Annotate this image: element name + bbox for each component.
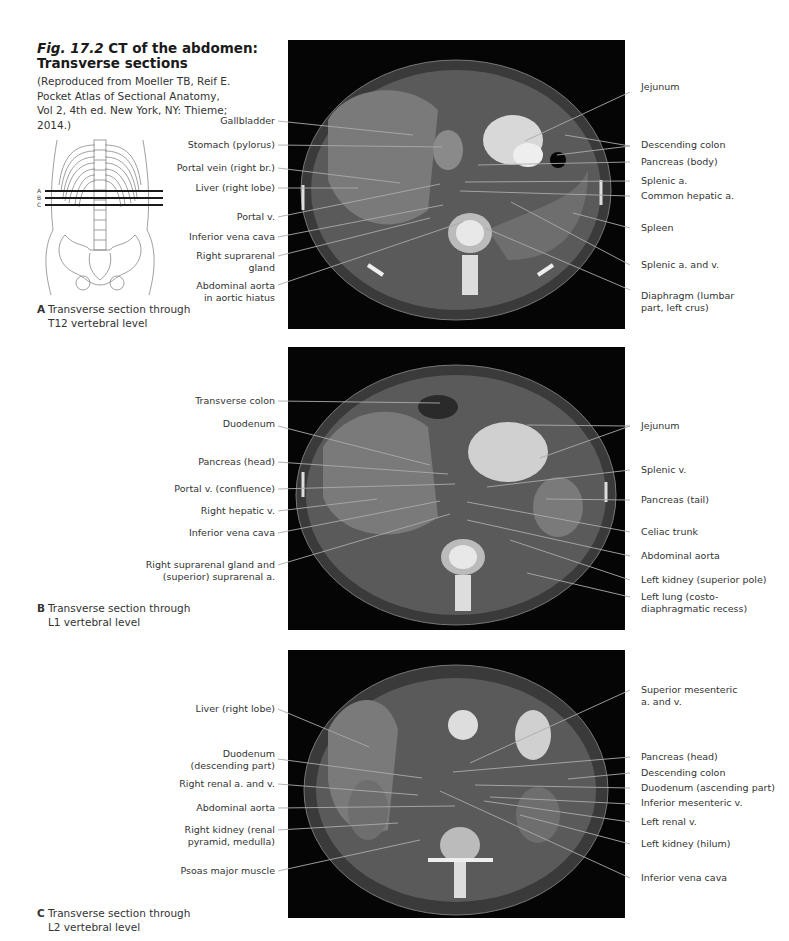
label-abdominal-aorta-c: Abdominal aorta <box>196 802 275 814</box>
marker-c: C <box>37 201 41 208</box>
label-jejunum: Jejunum <box>641 81 680 93</box>
label-inferior-mesenteric-v: Inferior mesenteric v. <box>641 797 742 809</box>
figure-title-line2: Transverse sections <box>37 55 188 71</box>
label-splenic-a: Splenic a. <box>641 175 687 187</box>
label-superior-mesenteric-2: a. and v. <box>641 696 682 708</box>
figure-title-text: CT of the abdomen: <box>108 40 258 56</box>
label-descending-colon: Descending colon <box>641 139 725 151</box>
label-right-kidney: Right kidney (renal <box>185 824 275 836</box>
label-portal-v-confluence: Portal v. (confluence) <box>174 483 275 495</box>
label-gallbladder: Gallbladder <box>220 115 275 127</box>
label-left-lung: Left lung (costo- <box>641 591 718 603</box>
label-stomach-pylorus: Stomach (pylorus) <box>188 139 275 151</box>
label-common-hepatic-a: Common hepatic a. <box>641 190 734 202</box>
panel-c-caption: CTransverse section through L2 vertebral… <box>37 906 207 934</box>
label-duodenum-descending: Duodenum <box>223 748 275 760</box>
label-superior-mesenteric: Superior mesenteric <box>641 684 737 696</box>
label-duodenum-descending-2: (descending part) <box>190 760 275 772</box>
figure-number: Fig. 17.2 <box>37 40 104 56</box>
skeleton-icon: A B C <box>35 135 165 300</box>
label-inferior-vena-cava-b: Inferior vena cava <box>189 527 275 539</box>
label-abdominal-aorta-2: in aortic hiatus <box>204 292 275 304</box>
label-abdominal-aorta: Abdominal aorta <box>196 280 275 292</box>
label-liver-right-lobe-c: Liver (right lobe) <box>196 703 275 715</box>
ct-image-a <box>288 40 625 329</box>
panel-c-caption-line2: L2 vertebral level <box>37 920 207 934</box>
label-left-lung-2: diaphragmatic recess) <box>641 603 747 615</box>
label-pancreas-tail: Pancreas (tail) <box>641 494 709 506</box>
panel-b-caption: BTransverse section through L1 vertebral… <box>37 601 207 629</box>
label-splenic-v: Splenic v. <box>641 464 686 476</box>
label-left-kidney-hilum: Left kidney (hilum) <box>641 838 731 850</box>
label-inferior-vena-cava-c: Inferior vena cava <box>641 872 727 884</box>
label-duodenum: Duodenum <box>223 418 275 430</box>
ct-image-c <box>288 650 625 918</box>
label-psoas-major-muscle: Psoas major muscle <box>181 865 276 877</box>
marker-b: B <box>37 194 41 201</box>
label-celiac-trunk: Celiac trunk <box>641 526 698 538</box>
panel-c-letter: C <box>37 906 48 920</box>
label-diaphragm-2: part, left crus) <box>641 302 709 314</box>
label-pancreas-head-c: Pancreas (head) <box>641 751 718 763</box>
label-right-kidney-2: pyramid, medulla) <box>188 836 275 848</box>
marker-a: A <box>37 187 42 194</box>
ct-image-b <box>288 347 625 630</box>
label-right-suprarenal-gland-and-a-2: (superior) suprarenal a. <box>163 571 275 583</box>
label-spleen: Spleen <box>641 222 673 234</box>
skeleton-diagram: A B C <box>35 135 165 300</box>
panel-b-caption-line1: Transverse section through <box>48 602 190 614</box>
label-right-suprarenal-gland-and-a: Right suprarenal gland and <box>146 559 275 571</box>
label-pancreas-body: Pancreas (body) <box>641 156 718 168</box>
label-portal-vein-right-br: Portal vein (right br.) <box>177 162 275 174</box>
label-right-suprarenal-gland: Right suprarenal <box>196 250 275 262</box>
panel-a-caption-line1: Transverse section through <box>48 303 190 315</box>
panel-a-caption: ATransverse section through T12 vertebra… <box>37 302 207 330</box>
label-inferior-vena-cava: Inferior vena cava <box>189 231 275 243</box>
label-descending-colon-c: Descending colon <box>641 767 725 779</box>
panel-b-caption-line2: L1 vertebral level <box>37 615 207 629</box>
figure-title: Fig. 17.2 CT of the abdomen: Transverse … <box>37 41 267 71</box>
label-left-kidney-superior-pole: Left kidney (superior pole) <box>641 574 766 586</box>
label-duodenum-ascending: Duodenum (ascending part) <box>641 782 775 794</box>
label-pancreas-head: Pancreas (head) <box>198 456 275 468</box>
label-right-suprarenal-gland-2: gland <box>248 262 275 274</box>
label-diaphragm: Diaphragm (lumbar <box>641 290 734 302</box>
label-transverse-colon: Transverse colon <box>195 395 275 407</box>
panel-a-letter: A <box>37 302 48 316</box>
label-jejunum-b: Jejunum <box>641 420 680 432</box>
panel-b-letter: B <box>37 601 48 615</box>
label-left-renal-v: Left renal v. <box>641 816 697 828</box>
label-abdominal-aorta-b: Abdominal aorta <box>641 550 720 562</box>
label-liver-right-lobe: Liver (right lobe) <box>196 182 275 194</box>
panel-a-caption-line2: T12 vertebral level <box>37 316 207 330</box>
label-splenic-a-and-v: Splenic a. and v. <box>641 259 719 271</box>
label-right-renal-a-and-v: Right renal a. and v. <box>179 778 275 790</box>
label-portal-v: Portal v. <box>237 211 275 223</box>
panel-c-caption-line1: Transverse section through <box>48 907 190 919</box>
label-right-hepatic-v: Right hepatic v. <box>201 505 275 517</box>
figure-credit: (Reproduced from Moeller TB, Reif E. Poc… <box>37 74 237 132</box>
